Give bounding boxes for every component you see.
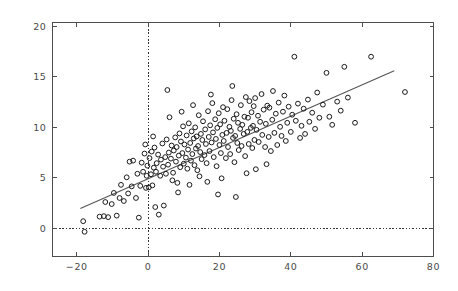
x-tick-label: −20 — [66, 261, 88, 272]
plot-canvas: −2002040608005101520 — [0, 0, 458, 291]
y-tick-label: 10 — [33, 122, 46, 133]
y-tick-label: 20 — [33, 21, 46, 32]
x-tick-label: 40 — [284, 261, 297, 272]
scatter-plot-figure: −2002040608005101520 — [0, 0, 458, 291]
y-tick-label: 15 — [33, 71, 46, 82]
x-tick-label: 0 — [145, 261, 152, 272]
x-tick-label: 80 — [427, 261, 440, 272]
x-tick-label: 20 — [213, 261, 226, 272]
y-tick-label: 5 — [40, 172, 47, 183]
x-tick-label: 60 — [356, 261, 369, 272]
plot-background — [0, 0, 458, 291]
y-tick-label: 0 — [40, 223, 47, 234]
